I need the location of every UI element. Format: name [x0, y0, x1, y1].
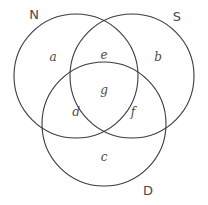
region-label-a: a	[49, 51, 56, 63]
circle-set-n	[14, 14, 138, 138]
circle-set-d	[42, 62, 166, 186]
circle-set-s	[70, 14, 194, 138]
set-label-n: N	[29, 8, 39, 21]
region-label-c: c	[101, 151, 108, 163]
venn-circles-group	[0, 0, 208, 205]
set-label-d: D	[143, 184, 153, 197]
region-label-e: e	[100, 49, 107, 61]
region-label-g: g	[100, 84, 108, 96]
set-label-s: S	[173, 10, 181, 23]
region-label-d: d	[72, 106, 80, 118]
region-label-f: f	[131, 106, 135, 118]
region-label-b: b	[154, 51, 162, 63]
venn-diagram: N S D a b c d e f g	[0, 0, 208, 205]
